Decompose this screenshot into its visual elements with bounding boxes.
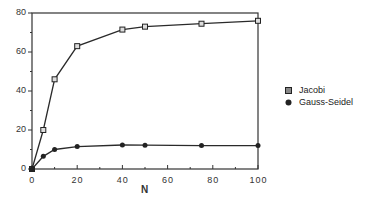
open-square-marker-icon [143, 24, 148, 29]
x-tick-label: 20 [72, 175, 84, 185]
open-square-marker-icon [52, 77, 57, 82]
open-square-marker-icon [120, 27, 125, 32]
y-tick-label: 20 [16, 124, 26, 134]
x-tick-label: 40 [117, 175, 129, 185]
legend-item-jacobi: Jacobi [283, 84, 353, 96]
open-square-marker-icon [283, 87, 293, 94]
x-tick-label: 0 [29, 175, 35, 185]
filled-circle-marker-icon [75, 144, 80, 149]
filled-circle-marker-icon [30, 167, 35, 172]
filled-circle-marker-icon [199, 143, 204, 148]
x-tick-label: 80 [207, 175, 219, 185]
filled-circle-marker-icon [52, 147, 57, 152]
y-tick-label: 40 [16, 85, 26, 95]
filled-circle-marker-icon [120, 143, 125, 148]
y-tick-label: 0 [21, 163, 26, 173]
legend-label: Jacobi [299, 85, 325, 95]
filled-circle-marker-icon [283, 99, 293, 106]
y-tick-label: 80 [16, 7, 26, 17]
x-axis-label: N [141, 184, 148, 195]
y-tick-label: 60 [16, 46, 26, 56]
x-tick-label: 60 [162, 175, 174, 185]
filled-circle-marker-icon [256, 143, 261, 148]
legend: Jacobi Gauss-Seidel [283, 84, 353, 108]
legend-label: Gauss-Seidel [299, 97, 353, 107]
open-square-marker-icon [256, 18, 261, 23]
open-square-marker-icon [41, 128, 46, 133]
open-square-marker-icon [199, 21, 204, 26]
filled-circle-marker-icon [41, 154, 46, 159]
open-square-marker-icon [75, 44, 80, 49]
filled-circle-marker-icon [143, 143, 148, 148]
legend-item-gauss-seidel: Gauss-Seidel [283, 96, 353, 108]
plot-series [30, 18, 261, 171]
series-line [32, 145, 258, 169]
x-tick-label: 100 [250, 175, 268, 185]
